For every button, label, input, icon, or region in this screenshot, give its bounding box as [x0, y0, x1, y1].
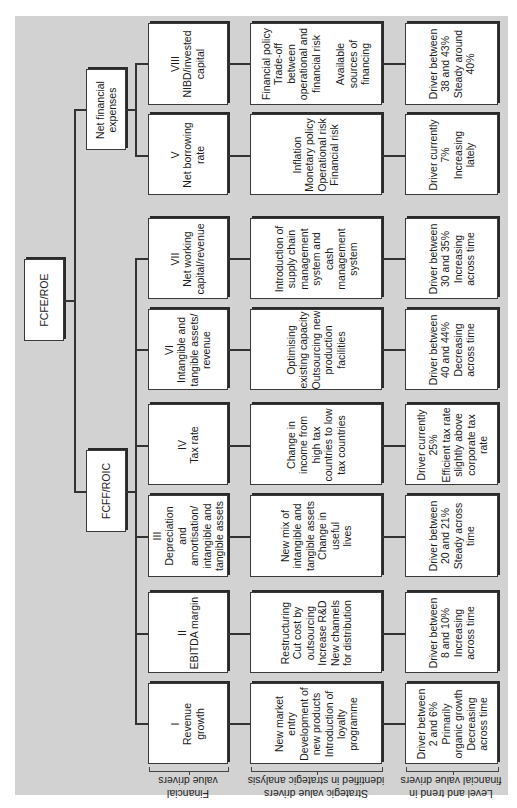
strategic-text: New mix of intangible and tangible asset… — [279, 496, 353, 576]
driver-text: II EBITDA margin — [176, 593, 201, 673]
strategic-text: Restructuring Cut cost by outsourcing In… — [279, 593, 353, 673]
driver-text: VII Net working capital/revenue — [169, 219, 206, 299]
strategic-driver-iii: New mix of intangible and tangible asset… — [250, 495, 382, 577]
strategic-driver-v: Inflation Monetary policy Operational ri… — [250, 114, 382, 195]
connector-row — [135, 155, 148, 157]
root-node-label: FCFE/ROE — [38, 260, 50, 340]
trend-text: Driver between 20 and 21% Steady across … — [427, 496, 477, 576]
connector-row — [228, 63, 250, 65]
connector-row — [135, 258, 148, 260]
brace-strategic — [251, 767, 383, 772]
trend-iv: Driver currently 25% Efficient tax rate … — [405, 404, 498, 485]
trend-text: Driver currently 25% Efficient tax rate … — [414, 405, 488, 485]
financial-driver-v: V Net borrowing rate — [148, 114, 228, 195]
connector-row — [228, 349, 250, 351]
connector-row — [382, 63, 405, 65]
column-label-financial: Financial value drivers — [148, 775, 228, 800]
connector-row — [382, 633, 405, 635]
strategic-driver-vii: Introduction of supply chain management … — [250, 218, 382, 299]
column-label-strategic: Strategic value drivers identified in st… — [240, 775, 392, 800]
connector-to-fcff — [74, 491, 86, 493]
driver-text: IV Tax rate — [176, 405, 201, 485]
strategic-text: Financial policy Trade-off between opera… — [260, 24, 372, 104]
connector-row — [135, 633, 148, 635]
trend-viii: Driver between 38 and 43% Steady around … — [405, 23, 498, 105]
connector-nfe-bus — [135, 63, 137, 156]
financial-driver-iv: IV Tax rate — [148, 404, 228, 485]
financial-driver-vii: VII Net working capital/revenue — [148, 218, 228, 299]
financial-driver-ii: II EBITDA margin — [148, 592, 228, 673]
driver-text: III Depreciation and amortisation/ intan… — [151, 496, 225, 576]
driver-text: I Revenue growth — [169, 684, 206, 764]
driver-text: VIII NIBD/invested capital — [169, 24, 206, 104]
financial-driver-i: I Revenue growth — [148, 683, 228, 764]
trend-text: Driver between 38 and 43% Steady around … — [427, 24, 477, 104]
connector-row — [135, 536, 148, 538]
strategic-text: Inflation Monetary policy Operational ri… — [291, 115, 341, 195]
driver-text: V Net borrowing rate — [169, 115, 206, 195]
connector-row — [382, 155, 405, 157]
connector-row — [135, 445, 148, 447]
column-label-trend: Level and trend in financial value drive… — [398, 775, 504, 800]
branch-node-label: Net financial expenses — [94, 71, 119, 149]
brace-financial — [149, 767, 229, 772]
connector-row — [135, 723, 148, 725]
connector-row — [382, 258, 405, 260]
trend-text: Driver between 8 and 10% Increasing acro… — [427, 593, 477, 673]
root-node-fcfe-roe: FCFE/ROE — [24, 259, 64, 341]
trend-vi: Driver between 40 and 44% Decreasing acr… — [405, 309, 498, 390]
connector-row — [228, 445, 250, 447]
branch-node-net-financial-expenses: Net financial expenses — [86, 69, 126, 150]
strategic-driver-vi: Optimising existing capacity Outsourcing… — [250, 309, 382, 390]
strategic-driver-iv: Change in income from high tax countries… — [250, 404, 382, 485]
connector-to-net-financial — [74, 109, 86, 111]
connector-row — [228, 536, 250, 538]
trend-i: Driver between 2 and 6% Primarily organi… — [405, 683, 498, 764]
financial-driver-iii: III Depreciation and amortisation/ intan… — [148, 495, 228, 577]
trend-ii: Driver between 8 and 10% Increasing acro… — [405, 592, 498, 673]
connector-row — [382, 536, 405, 538]
connector-fcff-bus — [135, 258, 137, 724]
trend-v: Driver currently 7% Increasing lately — [405, 114, 498, 195]
trend-text: Driver currently 7% Increasing lately — [427, 115, 477, 195]
driver-text: VI Intangible and tangible assets/ reven… — [163, 310, 213, 390]
strategic-text: New market entry Development of new prod… — [273, 684, 360, 764]
financial-driver-vi: VI Intangible and tangible assets/ reven… — [148, 309, 228, 390]
connector-trunk — [74, 109, 76, 492]
branch-node-fcff-roic: FCFF/ROIC — [86, 450, 126, 532]
connector-row — [228, 258, 250, 260]
strategic-driver-i: New market entry Development of new prod… — [250, 683, 382, 764]
strategic-text: Optimising existing capacity Outsourcing… — [285, 310, 347, 390]
connector-row — [382, 723, 405, 725]
trend-text: Driver between 40 and 44% Decreasing acr… — [427, 310, 477, 390]
trend-text: Driver between 30 and 35% Increasing acr… — [427, 219, 477, 299]
trend-iii: Driver between 20 and 21% Steady across … — [405, 495, 498, 577]
strategic-driver-ii: Restructuring Cut cost by outsourcing In… — [250, 592, 382, 673]
branch-node-label: FCFF/ROIC — [100, 452, 112, 530]
connector-row — [228, 155, 250, 157]
financial-driver-viii: VIII NIBD/invested capital — [148, 23, 228, 105]
strategic-driver-viii: Financial policy Trade-off between opera… — [250, 23, 382, 105]
connector-row — [135, 349, 148, 351]
brace-trend — [406, 767, 499, 772]
trend-text: Driver between 2 and 6% Primarily organi… — [414, 684, 488, 764]
connector-row — [135, 63, 148, 65]
connector-row — [382, 445, 405, 447]
connector-row — [228, 633, 250, 635]
connector-row — [228, 723, 250, 725]
strategic-text: Introduction of supply chain management … — [273, 219, 360, 299]
strategic-text: Change in income from high tax countries… — [285, 405, 347, 485]
connector-row — [382, 349, 405, 351]
trend-vii: Driver between 30 and 35% Increasing acr… — [405, 218, 498, 299]
